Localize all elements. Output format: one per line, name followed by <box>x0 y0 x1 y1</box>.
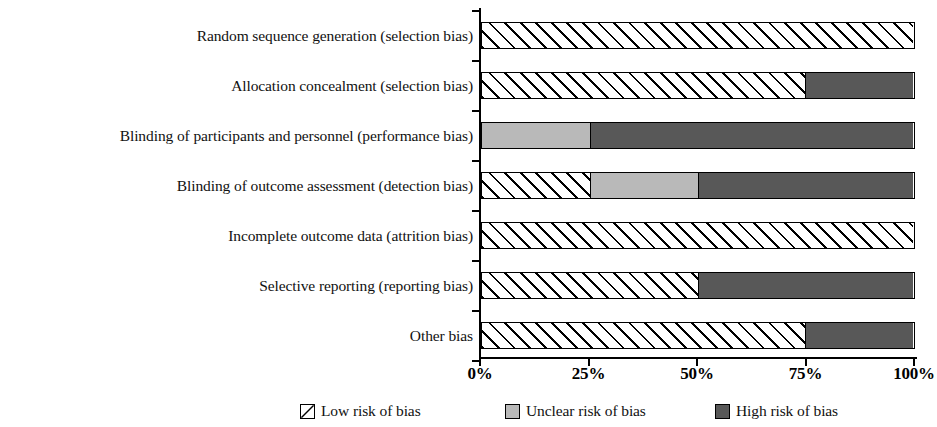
bar-segment-high <box>805 73 913 98</box>
risk-of-bias-chart: Random sequence generation (selection bi… <box>0 0 937 427</box>
bar-row <box>481 322 915 349</box>
x-axis-line <box>479 357 917 359</box>
legend-item-low[interactable]: Low risk of bias <box>300 400 421 422</box>
chart-legend: Low risk of biasUnclear risk of biasHigh… <box>0 400 937 424</box>
y-axis-tick <box>472 360 479 362</box>
bar-row <box>481 172 915 199</box>
category-label: Allocation concealment (selection bias) <box>0 77 473 95</box>
y-axis-tick <box>472 210 479 212</box>
legend-item-unclear[interactable]: Unclear risk of bias <box>505 400 646 422</box>
x-axis-tick-label: 25% <box>549 364 629 384</box>
bar-row <box>481 272 915 299</box>
y-axis-tick <box>472 160 479 162</box>
bar-row <box>481 122 915 149</box>
bar-segment-low <box>482 223 913 248</box>
x-axis-tick-label: 75% <box>766 364 846 384</box>
category-label: Random sequence generation (selection bi… <box>0 27 473 45</box>
category-label: Other bias <box>0 327 473 345</box>
bar-row <box>481 72 915 99</box>
bar-segment-low <box>482 73 805 98</box>
bar-row <box>481 22 915 49</box>
legend-label: Unclear risk of bias <box>526 403 646 419</box>
legend-label: High risk of bias <box>736 403 838 419</box>
legend-item-high[interactable]: High risk of bias <box>715 400 838 422</box>
bar-segment-low <box>482 323 805 348</box>
category-label: Blinding of participants and personnel (… <box>0 127 473 145</box>
bar-segment-low <box>482 173 590 198</box>
legend-swatch-high-icon <box>715 404 730 419</box>
bar-segment-low <box>482 23 913 48</box>
bar-segment-unclear <box>590 173 698 198</box>
legend-label: Low risk of bias <box>321 403 421 419</box>
bar-segment-high <box>805 323 913 348</box>
y-axis-tick <box>472 260 479 262</box>
bar-segment-unclear <box>482 123 590 148</box>
x-axis-tick-label: 100% <box>874 364 937 384</box>
bar-segment-low <box>482 273 698 298</box>
y-axis-tick <box>472 60 479 62</box>
category-label: Blinding of outcome assessment (detectio… <box>0 177 473 195</box>
bar-segment-high <box>698 273 914 298</box>
y-axis-tick <box>472 310 479 312</box>
bar-segment-high <box>698 173 914 198</box>
y-axis-tick <box>472 10 479 12</box>
legend-swatch-low-icon <box>300 404 315 419</box>
plot-area <box>479 8 915 358</box>
bar-segment-high <box>590 123 913 148</box>
y-axis-tick <box>472 110 479 112</box>
bar-row <box>481 222 915 249</box>
x-axis-tick-label: 50% <box>657 364 737 384</box>
category-label: Incomplete outcome data (attrition bias) <box>0 227 473 245</box>
category-axis-labels: Random sequence generation (selection bi… <box>0 8 473 358</box>
category-label: Selective reporting (reporting bias) <box>0 277 473 295</box>
x-axis-tick-label: 0% <box>440 364 520 384</box>
legend-swatch-unclear-icon <box>505 404 520 419</box>
